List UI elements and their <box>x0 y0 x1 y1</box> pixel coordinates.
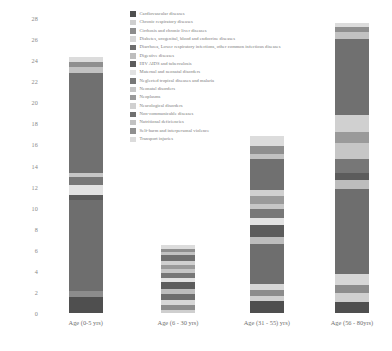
bar-segment[interactable] <box>335 302 369 313</box>
legend-item[interactable]: Neonatal disorders <box>130 85 380 93</box>
y-axis-tick: 6 <box>35 246 38 253</box>
bar-segment[interactable] <box>161 310 195 313</box>
legend-item[interactable]: Neoplasms <box>130 93 380 101</box>
legend-item-label: Digestive diseases <box>140 54 175 59</box>
bar-segment[interactable] <box>250 225 284 238</box>
bar-segment[interactable] <box>335 173 369 180</box>
y-axis-tick: 20 <box>32 99 38 106</box>
bar-segment[interactable] <box>335 293 369 302</box>
y-axis-tick: 26 <box>32 36 38 43</box>
legend-swatch <box>130 61 136 67</box>
legend-swatch <box>130 45 136 51</box>
bar-segment[interactable] <box>335 285 369 293</box>
y-axis-tick: 2 <box>35 288 38 295</box>
y-axis-tick: 4 <box>35 267 38 274</box>
bar-segment[interactable] <box>69 73 103 173</box>
legend-swatch <box>130 36 136 42</box>
legend-swatch <box>130 28 136 34</box>
legend-item-label: Non-communicable diseases <box>140 112 194 117</box>
legend-item[interactable]: Transport injuries <box>130 135 380 143</box>
bar-segment[interactable] <box>335 180 369 188</box>
legend-item-label: Maternal and neonatal disorders <box>140 70 201 75</box>
y-axis-tick: 24 <box>32 57 38 64</box>
legend-swatch <box>130 11 136 17</box>
y-axis-tick: 0 <box>35 310 38 317</box>
legend-item-label: Self-harm and interpersonal violence <box>140 129 210 134</box>
bar-segment[interactable] <box>69 200 103 291</box>
legend-item[interactable]: HIV AIDS and tuberculosis <box>130 60 380 68</box>
legend-item-label: Diarrhoea, Lower respiratory infections,… <box>140 45 281 50</box>
bar-segment[interactable] <box>335 189 369 274</box>
stacked-bar[interactable] <box>161 245 195 313</box>
bar-segment[interactable] <box>250 244 284 284</box>
legend-item-label: Diabetes, urogenital, blood and endocrin… <box>140 37 236 42</box>
legend-item-label: Cardiovascular diseases <box>140 12 185 17</box>
stacked-bar[interactable] <box>250 136 284 313</box>
legend-item[interactable]: Digestive diseases <box>130 52 380 60</box>
x-axis-label: Age (31 - 55) yrs) <box>244 319 290 326</box>
bar-segment[interactable] <box>335 143 369 159</box>
legend-swatch <box>130 53 136 59</box>
legend-swatch <box>130 20 136 26</box>
legend-item-label: Cirrhosis and chronic liver diseases <box>140 29 207 34</box>
legend-item-label: Neurological disorders <box>140 104 183 109</box>
y-axis-tick: 14 <box>32 162 38 169</box>
y-axis-tick: 18 <box>32 120 38 127</box>
bar-segment[interactable] <box>69 185 103 196</box>
x-axis-label: Age (6 - 30 yrs) <box>158 319 199 326</box>
legend-item[interactable]: Self-harm and interpersonal violence <box>130 127 380 135</box>
y-axis-tick: 12 <box>32 183 38 190</box>
bar-segment[interactable] <box>250 159 284 190</box>
legend-item-label: Neonatal disorders <box>140 87 175 92</box>
legend-item-label: Neglected tropical diseases and malaria <box>140 79 215 84</box>
y-axis-tick: 28 <box>32 15 38 22</box>
legend-item[interactable]: Diabetes, urogenital, blood and endocrin… <box>130 35 380 43</box>
chart-legend: Cardiovascular diseasesChronic respirato… <box>130 10 380 144</box>
legend-swatch <box>130 137 136 143</box>
legend-swatch <box>130 95 136 101</box>
y-axis-tick: 22 <box>32 78 38 85</box>
legend-item[interactable]: Non-communicable diseases <box>130 110 380 118</box>
y-axis-tick: 16 <box>32 141 38 148</box>
legend-swatch <box>130 112 136 118</box>
bar-segment[interactable] <box>335 159 369 173</box>
legend-item[interactable]: Cirrhosis and chronic liver diseases <box>130 27 380 35</box>
x-axis-label: Age (56 - 80yrs) <box>331 319 373 326</box>
legend-swatch <box>130 70 136 76</box>
x-axis-label: Age (0-5 yrs) <box>69 319 103 326</box>
legend-item-label: HIV AIDS and tuberculosis <box>140 62 192 67</box>
legend-swatch <box>130 103 136 109</box>
bar-segment[interactable] <box>335 274 369 285</box>
stacked-bar-chart: 0246810121416182022242628 Age (0-5 yrs)A… <box>0 0 392 351</box>
legend-swatch <box>130 120 136 126</box>
bar-segment[interactable] <box>250 301 284 313</box>
legend-swatch <box>130 78 136 84</box>
y-axis: 0246810121416182022242628 <box>0 0 44 351</box>
legend-item[interactable]: Neglected tropical diseases and malaria <box>130 77 380 85</box>
legend-item[interactable]: Maternal and neonatal disorders <box>130 68 380 76</box>
y-axis-tick: 8 <box>35 225 38 232</box>
legend-item-label: Transport injuries <box>140 137 174 142</box>
legend-item[interactable]: Neurological disorders <box>130 102 380 110</box>
bar-segment[interactable] <box>250 209 284 218</box>
bar-segment[interactable] <box>69 177 103 184</box>
legend-item-label: Chronic respiratory diseases <box>140 20 193 25</box>
legend-swatch <box>130 87 136 93</box>
legend-item-label: Nutritional deficiencies <box>140 120 184 125</box>
bar-segment[interactable] <box>69 297 103 313</box>
legend-item[interactable]: Chronic respiratory diseases <box>130 18 380 26</box>
y-axis-tick: 10 <box>32 204 38 211</box>
legend-item[interactable]: Cardiovascular diseases <box>130 10 380 18</box>
bar-segment[interactable] <box>250 196 284 203</box>
legend-item[interactable]: Nutritional deficiencies <box>130 118 380 126</box>
stacked-bar[interactable] <box>69 57 103 313</box>
legend-swatch <box>130 128 136 134</box>
legend-item[interactable]: Diarrhoea, Lower respiratory infections,… <box>130 43 380 51</box>
bar-segment[interactable] <box>250 146 284 154</box>
legend-item-label: Neoplasms <box>140 95 161 100</box>
